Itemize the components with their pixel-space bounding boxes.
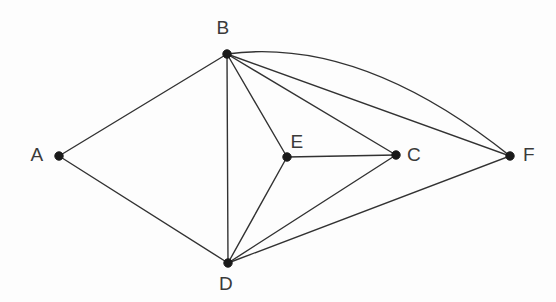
- graph-vertex-label-c: C: [407, 144, 421, 165]
- graph-vertex-label-f: F: [523, 144, 535, 165]
- graph-vertex-label-b: B: [216, 17, 229, 38]
- graph-edge-a-d: [59, 156, 228, 263]
- graph-vertex-label-a: A: [30, 144, 43, 165]
- graph-edge-b-f: [227, 54, 510, 156]
- graph-diagram: ABCDEF: [0, 0, 556, 302]
- graph-vertex-b[interactable]: [223, 50, 231, 58]
- graph-canvas: ABCDEF: [0, 0, 556, 302]
- graph-vertex-d[interactable]: [224, 259, 232, 267]
- graph-vertex-a[interactable]: [55, 152, 63, 160]
- graph-vertex-e[interactable]: [283, 153, 291, 161]
- graph-edge-a-b: [59, 54, 227, 156]
- graph-vertex-label-d: D: [219, 273, 233, 294]
- graph-edge-b-d: [227, 54, 228, 263]
- vertices-layer: [55, 50, 514, 267]
- graph-edge-b-e: [227, 54, 287, 157]
- graph-edge-d-e: [228, 157, 287, 263]
- graph-vertex-c[interactable]: [392, 151, 400, 159]
- graph-edge-e-c: [287, 155, 396, 157]
- graph-vertex-label-e: E: [290, 131, 303, 152]
- graph-edge-b-c: [227, 54, 396, 155]
- graph-vertex-f[interactable]: [506, 152, 514, 160]
